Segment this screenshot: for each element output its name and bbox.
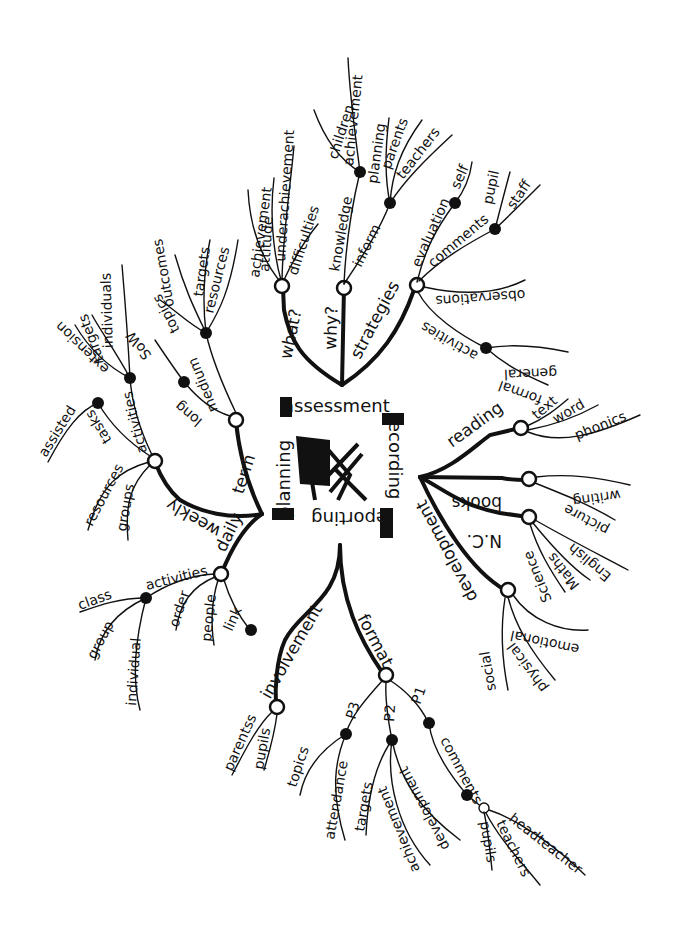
branch-recording: reading books N.C. development text word… [411, 392, 640, 696]
label-reading: reading [443, 397, 507, 451]
node-nc [522, 510, 536, 524]
node-reading [514, 421, 528, 435]
label-inform: inform [349, 221, 383, 269]
scribble-drawing-icon [296, 436, 366, 500]
label-tasks: tasks [81, 407, 114, 447]
activities-daily-child-1: group [84, 618, 117, 662]
center-label-assessment: assessment [283, 395, 390, 416]
label-order: order [166, 588, 193, 629]
label-observations: observations [435, 287, 526, 309]
node-books [522, 472, 536, 486]
involvement-child-1: pupils [250, 727, 273, 771]
label-weekly: weekly [163, 495, 224, 542]
label-p2: P2 [381, 704, 398, 722]
label-strategies: strategies [346, 277, 404, 361]
p3-child-1: attendance [321, 759, 351, 840]
center-label-reporting: reporting [311, 508, 394, 529]
center-label-planning: planning [273, 440, 294, 518]
center-box: assessment recording reporting planning [272, 395, 406, 538]
activities-weekly-child-2: individuals [97, 273, 116, 349]
node-term [229, 413, 243, 427]
center-label-recording: recording [385, 414, 406, 499]
label-books: books [452, 493, 502, 513]
comments-child-0: pupil [479, 169, 502, 206]
label-long: long [171, 398, 204, 430]
label-nc: N.C. [467, 531, 502, 551]
label-term: term [228, 452, 259, 497]
node-comments-report [461, 789, 473, 801]
node-link [245, 624, 257, 636]
label-format: format [353, 610, 397, 670]
label-people: people [198, 593, 219, 642]
node-what [275, 279, 289, 293]
label-p3: P3 [343, 700, 363, 721]
p3-child-0: topics [284, 744, 312, 789]
mind-map: assessment recording reporting planning … [0, 0, 673, 947]
p2-child-0: targets [351, 781, 375, 833]
node-long [178, 376, 190, 388]
label-p1: P1 [408, 684, 429, 706]
development-child-2: social [476, 650, 499, 692]
activities-daily-child-0: class [76, 586, 114, 613]
activities-daily-child-2: individual [123, 637, 144, 706]
label-why: why? [320, 306, 342, 350]
branch-assessment: what? why? strategies achievement attitu… [246, 58, 568, 408]
label-groups: groups [113, 483, 137, 533]
books-child-0: writing [572, 487, 622, 510]
node-evaluation [449, 197, 461, 209]
activities-assess-child-0: general [504, 365, 558, 383]
branch-planning: term weekly daily long medium SoW topics… [35, 238, 262, 710]
node-daily [214, 567, 228, 581]
tasks-child-0: assisted [35, 402, 79, 459]
knowledge-child-1: achievement [340, 73, 365, 166]
label-involvement: involvement [256, 600, 326, 702]
node-format [379, 668, 393, 682]
branch-reporting: involvement format parentss pupils P3 P2… [220, 545, 586, 885]
